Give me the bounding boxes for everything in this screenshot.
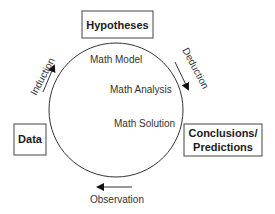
predictions-label: Predictions <box>193 141 253 153</box>
induction-label: Induction <box>28 56 57 97</box>
math-analysis-label: Math Analysis <box>110 84 172 95</box>
deduction-label: Deduction <box>180 46 211 91</box>
math-model-label: Math Model <box>90 54 142 65</box>
deduction-arrow <box>175 62 188 89</box>
hypotheses-box: Hypotheses <box>82 11 153 38</box>
math-modeling-cycle-diagram: Hypotheses Data Conclusions/ Predictions… <box>0 0 275 214</box>
data-box: Data <box>14 124 46 155</box>
conclusions-label: Conclusions/ <box>188 127 257 139</box>
conclusions-box: Conclusions/ Predictions <box>184 124 262 156</box>
observation-label: Observation <box>90 194 144 205</box>
hypotheses-label: Hypotheses <box>86 19 148 31</box>
math-solution-label: Math Solution <box>114 118 175 129</box>
data-label: Data <box>18 133 43 145</box>
